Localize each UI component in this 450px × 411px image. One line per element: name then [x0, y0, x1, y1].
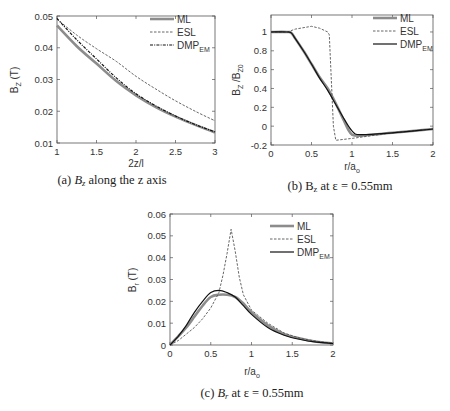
legend-label: ESL [177, 27, 196, 38]
y-tick-label: 0 [262, 121, 267, 132]
y-tick-label: 0.06 [148, 209, 167, 220]
x-tick-label: 1 [54, 146, 59, 157]
y-tick-label: 0.8 [254, 45, 267, 56]
x-tick-label: 3 [212, 146, 217, 157]
y-tick-label: 0.02 [148, 296, 167, 307]
x-tick-label: 2 [330, 348, 335, 359]
y-tick-label: 0.04 [35, 42, 54, 53]
legend-label: ESL [400, 26, 419, 37]
y-tick-label: 0 [161, 340, 166, 351]
chart-b: 00.511.52-0.200.20.40.60.81MLESLDMPEMr/a… [231, 13, 436, 195]
x-axis-label: r/ao [244, 366, 260, 379]
x-tick-label: 0.5 [204, 348, 217, 359]
x-tick-label: 2.5 [169, 146, 182, 157]
x-tick-label: 1.5 [386, 148, 399, 159]
figure-caption: (b) Bz at ε = 0.55mm [288, 179, 393, 194]
y-axis-label: BZ (T) [9, 67, 22, 94]
y-axis-label: BZ /BZ0 [231, 64, 244, 95]
y-tick-label: -0.2 [251, 140, 267, 151]
x-tick-label: 0.5 [305, 148, 318, 159]
y-tick-label: 0.05 [148, 230, 167, 241]
y-tick-label: 0.04 [148, 252, 167, 263]
x-tick-label: 1.5 [90, 146, 103, 157]
legend-label: ML [297, 221, 311, 232]
y-tick-label: 0.01 [148, 318, 167, 329]
chart-a: 11.522.530.010.020.030.040.05MLESLDMPEM2… [9, 11, 218, 189]
x-axis-label: 2z/l [128, 158, 144, 169]
y-tick-label: 0.03 [35, 74, 54, 85]
y-axis-label: Br (T) [127, 268, 140, 293]
legend-label: ESL [297, 234, 316, 245]
y-tick-label: 0.6 [254, 64, 267, 75]
y-tick-label: 0.4 [254, 83, 267, 94]
figure-caption: (a) Bz along the z axis [57, 173, 166, 188]
x-tick-label: 1.5 [286, 348, 299, 359]
y-tick-label: 0.05 [35, 11, 54, 22]
figure: 11.522.530.010.020.030.040.05MLESLDMPEM2… [0, 0, 450, 411]
y-tick-label: 0.01 [35, 138, 54, 149]
x-tick-label: 0 [167, 348, 172, 359]
x-tick-label: 2 [430, 148, 435, 159]
legend-label: ML [400, 13, 414, 24]
x-tick-label: 1 [249, 348, 254, 359]
y-tick-label: 0.2 [254, 102, 267, 113]
y-tick-label: 0.03 [148, 274, 167, 285]
y-tick-label: 0.02 [35, 106, 54, 117]
x-tick-label: 0 [268, 148, 273, 159]
x-tick-label: 2 [133, 146, 138, 157]
x-axis-label: r/ao [344, 161, 360, 174]
legend-label: ML [177, 14, 191, 25]
chart-c: 00.511.5200.010.020.030.040.050.06MLESLD… [127, 209, 336, 402]
figure-caption: (c) Br at ε = 0.55mm [200, 386, 303, 401]
y-tick-label: 1 [262, 26, 267, 37]
x-tick-label: 1 [349, 148, 354, 159]
